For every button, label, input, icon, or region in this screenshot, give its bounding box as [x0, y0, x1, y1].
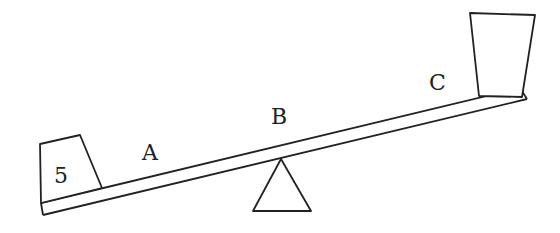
- left-weight-box: [40, 135, 102, 203]
- fulcrum-triangle: [253, 159, 311, 211]
- point-label-b: B: [271, 104, 287, 129]
- right-weight-box: [470, 13, 535, 97]
- left-weight-label: 5: [54, 163, 68, 188]
- seesaw-diagram: 5 A B C: [0, 0, 560, 233]
- point-label-a: A: [141, 140, 159, 165]
- point-label-c: C: [429, 70, 446, 95]
